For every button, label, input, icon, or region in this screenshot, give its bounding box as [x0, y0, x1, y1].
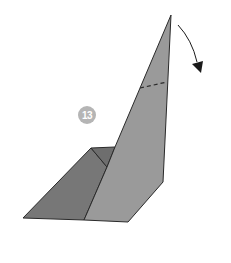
front-panel — [84, 15, 171, 222]
fold-arrow — [178, 25, 197, 62]
step-number-badge: 13 — [78, 106, 96, 124]
origami-diagram — [0, 0, 231, 263]
arrow-head-icon — [192, 61, 203, 73]
